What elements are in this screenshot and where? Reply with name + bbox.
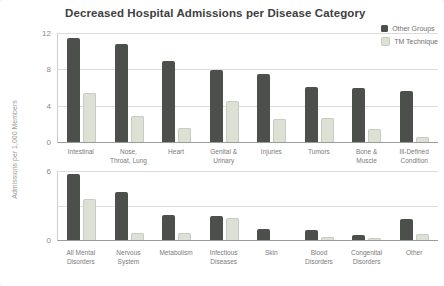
y-tick-label: 0 [31, 138, 51, 147]
bar-other-groups [115, 192, 128, 240]
x-axis-category-label: Heart [152, 147, 200, 166]
bar-other-groups [67, 174, 80, 240]
bar-group [115, 171, 144, 240]
legend-label-other-groups: Other Groups [392, 25, 434, 32]
bar-group [305, 33, 334, 142]
bar-other-groups [257, 229, 270, 241]
top-chart-category-labels: IntestinalNose, Throat, LungHeartGenital… [57, 147, 438, 166]
legend-item-other-groups: Other Groups [381, 25, 438, 32]
x-axis-category-label: Skin [248, 248, 296, 267]
chart-card: Decreased Hospital Admissions per Diseas… [0, 0, 444, 286]
bar-tm-technique [416, 137, 429, 142]
bar-group [67, 171, 96, 240]
bar-tm-technique [321, 237, 334, 240]
bar-tm-technique [178, 128, 191, 142]
x-axis-category-label: Nose, Throat, Lung [105, 147, 153, 166]
bar-other-groups [400, 219, 413, 240]
y-tick-label: 4 [31, 101, 51, 110]
x-axis-category-label: Metabolism [152, 248, 200, 267]
bar-other-groups [352, 235, 365, 240]
bar-tm-technique [416, 234, 429, 240]
bar-other-groups [400, 91, 413, 142]
bar-other-groups [115, 44, 128, 142]
bar-tm-technique [226, 101, 239, 142]
bar-group [257, 171, 286, 240]
x-axis-category-label: Nervous System [105, 248, 153, 267]
y-tick-label: 0 [31, 236, 51, 245]
bar-tm-technique [368, 238, 381, 240]
bar-other-groups [352, 88, 365, 143]
y-tick-label: 6 [31, 167, 51, 176]
y-axis-title: Admissions per 1,000 Members [11, 100, 18, 200]
x-axis-category-label: Injuries [248, 147, 296, 166]
bar-group [352, 33, 381, 142]
bar-group [115, 33, 144, 142]
x-axis-category-label: All Mental Disorders [57, 248, 105, 267]
x-axis-category-label: Blood Disorders [295, 248, 343, 267]
bar-tm-technique [131, 116, 144, 142]
chart-title: Decreased Hospital Admissions per Diseas… [65, 7, 366, 19]
bar-group [210, 171, 239, 240]
x-axis-category-label: Genital & Urinary [200, 147, 248, 166]
bottom-chart-panel: 06 [57, 171, 438, 241]
bar-tm-technique [83, 199, 96, 240]
y-tick-label: 8 [31, 65, 51, 74]
bar-groups [58, 33, 438, 142]
bar-other-groups [305, 87, 318, 142]
x-axis-category-label: Infectious Diseases [200, 248, 248, 267]
bar-group [162, 171, 191, 240]
bar-group [400, 171, 429, 240]
bar-tm-technique [368, 129, 381, 142]
bar-tm-technique [321, 118, 334, 142]
bar-tm-technique [83, 93, 96, 142]
x-axis-category-label: Tumors [295, 147, 343, 166]
bar-other-groups [162, 61, 175, 142]
x-axis-category-label: Other [390, 248, 438, 267]
x-axis-category-label: Congenital Disorders [343, 248, 391, 267]
bar-other-groups [67, 38, 80, 142]
bar-tm-technique [178, 233, 191, 240]
bar-group [352, 171, 381, 240]
bar-group [400, 33, 429, 142]
other-groups-swatch-icon [381, 25, 388, 32]
bar-other-groups [162, 215, 175, 240]
bar-group [257, 33, 286, 142]
bar-other-groups [210, 70, 223, 142]
bar-tm-technique [273, 119, 286, 142]
bar-group [162, 33, 191, 142]
bar-other-groups [305, 230, 318, 240]
bar-groups [58, 171, 438, 240]
bar-other-groups [210, 216, 223, 240]
bar-tm-technique [131, 233, 144, 240]
bar-group [305, 171, 334, 240]
x-axis-category-label: Ill-Defined Condition [390, 147, 438, 166]
y-tick-label: 12 [31, 29, 51, 38]
bar-group [210, 33, 239, 142]
x-axis-category-label: Bone & Muscle [343, 147, 391, 166]
bar-other-groups [257, 74, 270, 142]
bar-group [67, 33, 96, 142]
x-axis-category-label: Intestinal [57, 147, 105, 166]
bar-tm-technique [226, 218, 239, 240]
bottom-chart-category-labels: All Mental DisordersNervous SystemMetabo… [57, 248, 438, 267]
top-chart-panel: 04812 [57, 33, 438, 143]
